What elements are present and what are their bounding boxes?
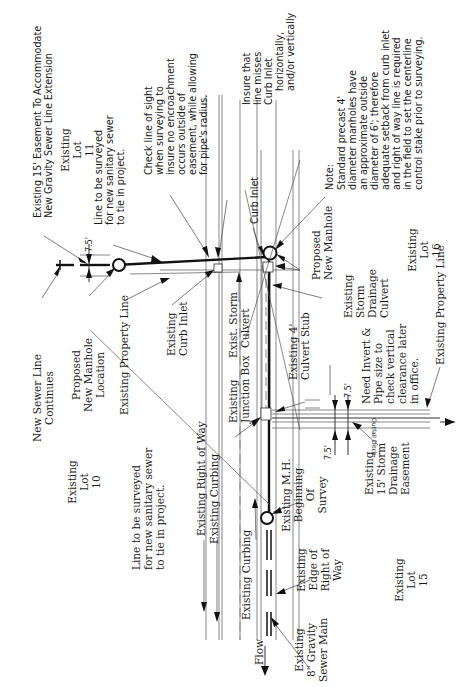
label-need-invert: Need Invert & Pipe size to check vertica… <box>360 323 420 404</box>
svg-text:in office.: in office. <box>408 358 420 404</box>
label-existing-curb-inlet: Existing Curb Inlet <box>165 301 189 356</box>
road-corridor-lines <box>206 95 299 640</box>
label-storm-drainage-easement: Existing 15' Storm Drainage Easement <box>363 442 411 495</box>
svg-text:Existing 15' Easement To Accom: Existing 15' Easement To Accommodate <box>32 26 43 218</box>
label-dim-top: 7.5' <box>85 237 94 252</box>
label-edge-of-row: Existing Edge of Right of Way <box>295 548 343 592</box>
svg-text:Beginning: Beginning <box>292 468 304 523</box>
svg-text:8" Gravity: 8" Gravity <box>305 623 317 677</box>
survey-sketch: Outfall Ditch <box>0 0 469 687</box>
svg-text:Existing Curbing: Existing Curbing <box>208 454 220 544</box>
svg-text:check vertical: check vertical <box>384 329 396 404</box>
svg-text:Lot: Lot <box>78 472 90 490</box>
svg-text:Drainage: Drainage <box>387 446 399 495</box>
svg-text:Line to be surveyed: Line to be surveyed <box>93 130 104 225</box>
svg-text:Existing Curbing: Existing Curbing <box>240 530 252 620</box>
label-proposed-new-manhole: Proposed New Manhole <box>310 206 334 280</box>
svg-text:Way: Way <box>331 559 343 581</box>
label-lot-15: Existing Lot 15 <box>393 558 429 602</box>
label-easement-15: Existing 15' Easement To Accommodate New… <box>32 26 54 218</box>
svg-text:Existing: Existing <box>363 451 375 495</box>
svg-text:Continues: Continues <box>43 371 55 425</box>
svg-text:Existing: Existing <box>406 228 418 272</box>
label-new-sewer-continues: New Sewer Line Continues <box>31 354 55 442</box>
svg-text:New Sewer Line: New Sewer Line <box>31 354 43 442</box>
svg-text:Need Invert &: Need Invert & <box>360 327 372 404</box>
svg-text:for new sanitary sewer: for new sanitary sewer <box>104 115 115 225</box>
svg-text:Existing: Existing <box>342 274 354 318</box>
svg-text:Of: Of <box>304 488 316 502</box>
label-insure-misses: Insure that line misses Curb Inlet horiz… <box>241 12 296 105</box>
svg-text:Pipe size to: Pipe size to <box>372 343 384 404</box>
label-curb-inlet-top: Curb Inlet <box>249 177 260 224</box>
svg-text:Drainage: Drainage <box>366 269 378 318</box>
existing-sewer-main <box>267 258 271 636</box>
label-check-line-of-sight: Check line of sight when surveying to in… <box>143 53 209 175</box>
label-existing-junction-box: Existing Junction Box <box>227 355 251 424</box>
svg-text:Curb Inlet: Curb Inlet <box>177 301 189 356</box>
label-line-surveyed-bottom: Line to be surveyed for new sanitary sew… <box>130 447 166 570</box>
label-property-line-left: Existing Property Line <box>118 295 130 415</box>
label-line-surveyed-top: Line to be surveyed for new sanitary sew… <box>93 115 126 225</box>
label-storm-drainage-culvert: Existing Storm Drainage Culvert <box>342 269 390 318</box>
svg-text:to tie in project.: to tie in project. <box>154 485 166 570</box>
label-curbing-lower: Existing Curbing <box>240 530 252 620</box>
svg-text:Standard precast 4': Standard precast 4' <box>336 96 347 190</box>
svg-text:Existing: Existing <box>393 558 405 602</box>
svg-text:control stake prior to surveyi: control stake prior to surveying. <box>413 36 424 190</box>
existing-manhole-icon <box>261 512 273 524</box>
svg-text:Existing: Existing <box>165 312 177 356</box>
label-note: Note: Standard precast 4' diameter manho… <box>324 30 424 190</box>
svg-text:Line to be surveyed: Line to be surveyed <box>130 465 142 570</box>
svg-text:Existing: Existing <box>293 628 305 672</box>
svg-text:Location: Location <box>94 352 106 398</box>
svg-text:Curb Inlet: Curb Inlet <box>249 177 260 224</box>
label-8-gravity-sewer: Existing 8" Gravity Sewer Main <box>293 618 329 682</box>
svg-text:Existing: Existing <box>59 128 71 172</box>
svg-text:Sewer Main: Sewer Main <box>317 618 329 682</box>
svg-text:Flow: Flow <box>253 639 265 665</box>
label-flow: Flow <box>253 639 265 665</box>
svg-text:Proposed: Proposed <box>70 350 82 400</box>
svg-text:10: 10 <box>90 475 102 488</box>
svg-text:diameter of 6'; therefore: diameter of 6'; therefore <box>369 72 380 190</box>
svg-text:Lot: Lot <box>405 570 417 588</box>
label-lot-10: Existing Lot 10 <box>66 460 102 504</box>
svg-text:diameter manholes have: diameter manholes have <box>347 70 358 190</box>
svg-text:Existing: Existing <box>66 460 78 504</box>
svg-text:Existing Property Line: Existing Property Line <box>434 245 446 365</box>
label-proposed-manhole-location: Proposed New Manhole Location <box>70 338 106 412</box>
svg-text:Proposed: Proposed <box>310 230 322 280</box>
svg-text:Existing 4': Existing 4' <box>287 324 299 380</box>
existing-curb-inlet-box <box>214 264 222 272</box>
svg-text:Lot: Lot <box>418 240 430 258</box>
svg-text:horizontally,: horizontally, <box>274 32 285 91</box>
svg-text:Existing: Existing <box>295 548 307 592</box>
svg-text:insure no encroachment: insure no encroachment <box>165 58 176 175</box>
svg-text:Existing M.H.: Existing M.H. <box>280 458 292 531</box>
svg-text:15: 15 <box>417 573 429 586</box>
svg-text:7.5': 7.5' <box>344 383 353 398</box>
svg-text:and/or vertically: and/or vertically <box>285 12 296 91</box>
svg-text:Existing: Existing <box>227 379 239 423</box>
svg-text:Right of: Right of <box>319 548 331 592</box>
svg-text:Culvert: Culvert <box>378 278 390 318</box>
label-culvert-stub: Existing 4' Culvert Stub <box>287 312 311 380</box>
svg-text:when surveying to: when surveying to <box>154 86 165 175</box>
label-curbing-upper: Existing Curbing <box>208 454 220 544</box>
svg-text:occurs outside of: occurs outside of <box>176 92 187 175</box>
svg-text:Insure that: Insure that <box>241 53 252 105</box>
existing-junction-box <box>261 408 271 420</box>
svg-text:Existing Right of Way: Existing Right of Way <box>195 421 207 536</box>
svg-text:Note:: Note: <box>324 164 335 190</box>
svg-text:Exist. Storm: Exist. Storm <box>227 292 239 358</box>
svg-text:Easement: Easement <box>399 442 411 495</box>
svg-text:Lot: Lot <box>71 140 83 158</box>
svg-text:Culvert: Culvert <box>239 308 251 348</box>
svg-text:Survey: Survey <box>316 476 328 513</box>
label-dim-right-a: 7.5' <box>344 383 353 398</box>
svg-text:line misses: line misses <box>252 52 263 105</box>
svg-text:15' Storm: 15' Storm <box>375 443 387 495</box>
svg-text:Junction Box: Junction Box <box>239 355 251 424</box>
svg-text:and right of way line is requi: and right of way line is required <box>391 37 402 190</box>
